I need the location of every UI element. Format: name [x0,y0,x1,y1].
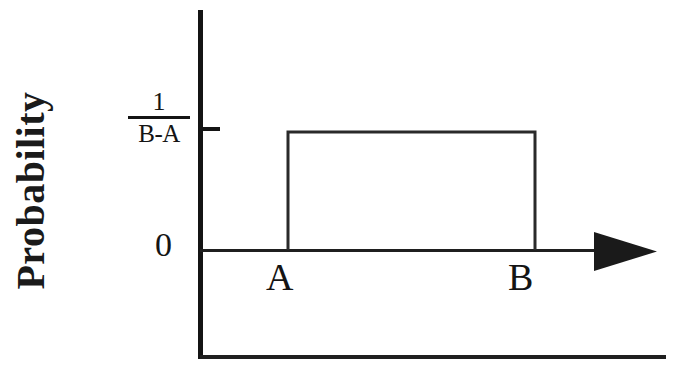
x-axis-line [200,249,598,252]
figure-linework [0,0,693,381]
uniform-density-rect [288,132,535,250]
x-axis-tick-label-a: A [266,258,293,296]
y-axis-zero-tick-label: 0 [155,228,172,262]
y-axis-line [198,10,203,359]
y-axis-title: Probability [0,0,62,381]
bottom-frame-line [200,355,666,359]
x-axis-tick-label-b: B [508,258,533,296]
fraction-bar [128,116,190,119]
y-axis-title-text: Probability [11,91,51,289]
uniform-distribution-figure: Probability 1 B-A 0 A B [0,0,693,381]
x-axis-arrowhead-icon [594,232,657,271]
y-axis-tick-max [203,127,220,131]
fraction-numerator: 1 [128,88,190,115]
y-axis-max-tick-label: 1 B-A [128,88,190,149]
fraction-denominator: B-A [128,120,190,149]
